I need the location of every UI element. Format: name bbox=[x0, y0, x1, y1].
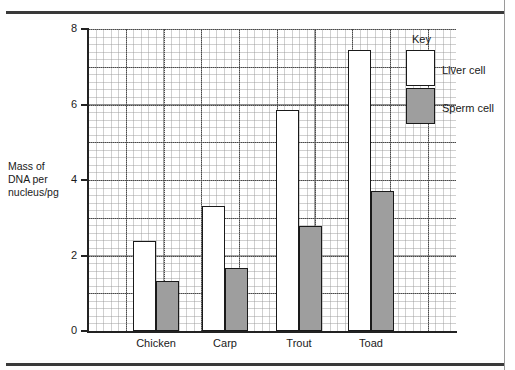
y-axis-tick bbox=[81, 330, 88, 332]
gridline-h bbox=[88, 142, 456, 143]
legend-label-liver-cell: Liver cell bbox=[442, 64, 485, 76]
y-axis-tick-label: 4 bbox=[59, 174, 77, 185]
right-border-rule bbox=[504, 0, 505, 370]
bar-carp-liver-cell bbox=[202, 206, 225, 331]
gridline-h bbox=[88, 180, 456, 181]
y-axis-tick-label: 6 bbox=[59, 99, 77, 110]
gridline-h bbox=[88, 105, 456, 106]
bar-toad-sperm-cell bbox=[371, 191, 394, 331]
x-axis-label-trout: Trout bbox=[259, 338, 339, 349]
x-axis-label-carp: Carp bbox=[185, 338, 265, 349]
bar-toad-liver-cell bbox=[348, 50, 371, 331]
bar-chicken-liver-cell bbox=[133, 241, 156, 331]
plot-area bbox=[88, 29, 456, 331]
y-axis-tick-labels: 02468 bbox=[55, 0, 77, 370]
gridline-v bbox=[126, 29, 127, 331]
bar-trout-liver-cell bbox=[276, 110, 299, 331]
y-axis-tick bbox=[81, 104, 88, 106]
y-axis-tick bbox=[81, 179, 88, 181]
bar-carp-sperm-cell bbox=[225, 268, 248, 331]
x-axis-label-toad: Toad bbox=[331, 338, 411, 349]
bar-trout-sperm-cell bbox=[299, 226, 322, 331]
x-axis-label-chicken: Chicken bbox=[116, 338, 196, 349]
legend-label-sperm-cell: Sperm cell bbox=[442, 102, 494, 114]
gridline-h bbox=[88, 67, 456, 68]
y-axis-tick-label: 0 bbox=[59, 325, 77, 336]
gridline-h bbox=[88, 29, 456, 30]
chart-page: Mass of DNA per nucleus/pg 02468 Chicken… bbox=[0, 0, 515, 370]
y-axis-tick bbox=[81, 28, 88, 30]
legend-swatch-sperm-cell bbox=[406, 88, 435, 124]
bar-chicken-sperm-cell bbox=[156, 281, 179, 331]
bottom-rule bbox=[6, 363, 505, 366]
x-axis-line bbox=[87, 331, 457, 333]
legend-swatch-liver-cell bbox=[406, 50, 435, 86]
legend-title: Key bbox=[412, 33, 431, 45]
top-rule bbox=[6, 11, 505, 14]
gridline-h bbox=[88, 218, 456, 219]
y-axis-tick bbox=[81, 255, 88, 257]
y-axis-tick-label: 2 bbox=[59, 250, 77, 261]
y-axis-tick-label: 8 bbox=[59, 23, 77, 34]
